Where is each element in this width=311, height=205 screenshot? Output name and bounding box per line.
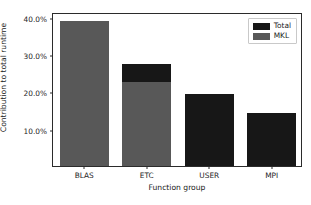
- y-tick-mark: [50, 56, 53, 57]
- figure: 10.0%20.0%30.0%40.0% BLASETCUSERMPI Tota…: [0, 0, 311, 205]
- y-tick-mark: [50, 93, 53, 94]
- x-tick-mark: [146, 166, 147, 169]
- plot-axes: 10.0%20.0%30.0%40.0% BLASETCUSERMPI Tota…: [52, 13, 302, 167]
- y-axis-label: Contribution to total runtime: [0, 0, 10, 154]
- y-tick-label: 20.0%: [24, 89, 47, 98]
- bar-total-user: [185, 94, 234, 166]
- y-tick-label: 10.0%: [24, 126, 47, 135]
- x-tick-label-blas: BLAS: [75, 171, 94, 180]
- x-tick-mark: [209, 166, 210, 169]
- bar-mkl-etc: [122, 82, 171, 166]
- bar-mkl-blas: [60, 21, 109, 166]
- y-tick-mark: [50, 18, 53, 19]
- y-tick-label: 40.0%: [24, 14, 47, 23]
- x-axis-label: Function group: [52, 183, 302, 192]
- legend: TotalMKL: [248, 18, 297, 44]
- x-tick-label-user: USER: [199, 171, 219, 180]
- legend-item-mkl[interactable]: MKL: [253, 32, 291, 40]
- x-tick-label-etc: ETC: [140, 171, 154, 180]
- y-tick-label: 30.0%: [24, 52, 47, 61]
- bar-total-mpi: [247, 113, 296, 166]
- x-tick-label-mpi: MPI: [265, 171, 278, 180]
- y-axis-label-text: Contribution to total runtime: [0, 22, 9, 131]
- x-tick-mark: [271, 166, 272, 169]
- x-tick-mark: [84, 166, 85, 169]
- legend-label-total: Total: [274, 22, 291, 30]
- y-tick-mark: [50, 130, 53, 131]
- legend-swatch-mkl: [253, 33, 270, 40]
- legend-swatch-total: [253, 23, 270, 30]
- legend-item-total[interactable]: Total: [253, 22, 291, 30]
- legend-label-mkl: MKL: [274, 32, 289, 40]
